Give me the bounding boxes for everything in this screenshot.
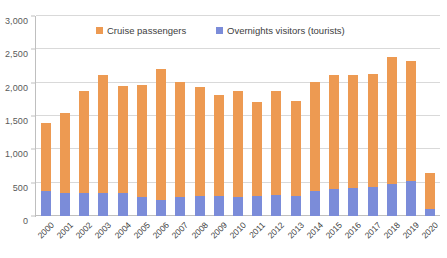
- bar-segment-cruise-passengers: [425, 173, 435, 209]
- x-axis-label-2013: 2013: [283, 220, 306, 243]
- bar-segment-cruise-passengers: [79, 91, 89, 193]
- bar-segment-overnight-visitors: [79, 193, 89, 216]
- bar-segment-overnight-visitors: [233, 197, 243, 216]
- bar-segment-overnight-visitors: [195, 196, 205, 216]
- bar-series-container: [36, 16, 440, 216]
- x-axis-label-2001: 2001: [52, 220, 75, 243]
- bar-2020[interactable]: [425, 173, 435, 216]
- y-axis-tick-mark: [31, 82, 35, 83]
- bar-segment-overnight-visitors: [175, 197, 185, 216]
- bar-2014[interactable]: [310, 82, 320, 216]
- bar-segment-cruise-passengers: [387, 57, 397, 184]
- bar-segment-cruise-passengers: [271, 91, 281, 195]
- bar-segment-overnight-visitors: [252, 196, 262, 216]
- bar-segment-cruise-passengers: [137, 85, 147, 197]
- bar-2015[interactable]: [329, 75, 339, 216]
- x-axis-label-2012: 2012: [264, 220, 287, 243]
- bar-2002[interactable]: [79, 91, 89, 216]
- bar-segment-cruise-passengers: [195, 87, 205, 196]
- x-axis-label-2019: 2019: [399, 220, 422, 243]
- bar-segment-overnight-visitors: [310, 191, 320, 216]
- bar-2019[interactable]: [406, 61, 416, 216]
- bar-segment-cruise-passengers: [98, 75, 108, 193]
- x-axis-label-2007: 2007: [168, 220, 191, 243]
- x-axis-label-2003: 2003: [91, 220, 114, 243]
- y-axis: 05001,0001,5002,0002,5003,000: [0, 16, 32, 216]
- y-axis-tick-mark: [31, 116, 35, 117]
- bar-2007[interactable]: [175, 82, 185, 216]
- x-axis-label-2018: 2018: [379, 220, 402, 243]
- bar-segment-cruise-passengers: [175, 82, 185, 197]
- x-axis-label-2005: 2005: [129, 220, 152, 243]
- bar-2006[interactable]: [156, 69, 166, 216]
- bar-segment-overnight-visitors: [291, 196, 301, 216]
- bar-2009[interactable]: [214, 95, 224, 216]
- bar-segment-cruise-passengers: [329, 75, 339, 188]
- bar-segment-cruise-passengers: [41, 123, 51, 191]
- x-axis-label-2004: 2004: [110, 220, 133, 243]
- y-axis-tick-mark: [31, 16, 35, 17]
- y-axis-tick-mark: [31, 216, 35, 217]
- x-axis-label-2009: 2009: [206, 220, 229, 243]
- x-axis-labels: 2000200120022003200420052006200720082009…: [36, 218, 440, 258]
- bar-segment-overnight-visitors: [156, 200, 166, 216]
- bar-segment-overnight-visitors: [406, 181, 416, 216]
- bar-2008[interactable]: [195, 87, 205, 216]
- bar-2012[interactable]: [271, 91, 281, 216]
- bar-2018[interactable]: [387, 57, 397, 216]
- x-axis-label-2015: 2015: [322, 220, 345, 243]
- x-axis-label-2017: 2017: [360, 220, 383, 243]
- plot-area: [36, 16, 440, 216]
- bar-segment-overnight-visitors: [368, 187, 378, 216]
- bar-segment-cruise-passengers: [156, 69, 166, 200]
- bar-segment-overnight-visitors: [425, 209, 435, 216]
- bar-segment-cruise-passengers: [252, 102, 262, 196]
- bar-segment-overnight-visitors: [214, 196, 224, 216]
- bar-segment-cruise-passengers: [348, 75, 358, 188]
- x-axis-label-2008: 2008: [187, 220, 210, 243]
- bar-segment-overnight-visitors: [137, 197, 147, 216]
- x-axis-label-2010: 2010: [225, 220, 248, 243]
- x-axis-label-2002: 2002: [72, 220, 95, 243]
- bar-2005[interactable]: [137, 85, 147, 216]
- bar-segment-overnight-visitors: [60, 193, 70, 216]
- bar-2001[interactable]: [60, 113, 70, 216]
- bar-segment-cruise-passengers: [60, 113, 70, 193]
- bar-segment-cruise-passengers: [406, 61, 416, 180]
- bar-2003[interactable]: [98, 75, 108, 216]
- bar-segment-overnight-visitors: [98, 193, 108, 216]
- x-axis-label-2020: 2020: [418, 220, 441, 243]
- bar-segment-overnight-visitors: [348, 188, 358, 216]
- y-axis-tick-mark: [31, 149, 35, 150]
- bar-segment-cruise-passengers: [368, 74, 378, 187]
- x-axis-label-2016: 2016: [341, 220, 364, 243]
- bar-2013[interactable]: [291, 101, 301, 216]
- bar-segment-cruise-passengers: [118, 86, 128, 193]
- bar-2004[interactable]: [118, 86, 128, 216]
- bar-2016[interactable]: [348, 75, 358, 216]
- bar-2000[interactable]: [41, 123, 51, 216]
- x-axis-label-2014: 2014: [302, 220, 325, 243]
- bar-segment-cruise-passengers: [310, 82, 320, 191]
- x-axis-label-2011: 2011: [245, 220, 268, 243]
- bar-segment-cruise-passengers: [214, 95, 224, 196]
- bar-segment-overnight-visitors: [387, 184, 397, 216]
- x-axis-label-2000: 2000: [33, 220, 56, 243]
- bar-segment-cruise-passengers: [233, 91, 243, 196]
- bar-segment-cruise-passengers: [291, 101, 301, 196]
- bar-segment-overnight-visitors: [41, 191, 51, 216]
- bar-2010[interactable]: [233, 91, 243, 216]
- bar-segment-overnight-visitors: [271, 195, 281, 216]
- y-axis-tick-mark: [31, 182, 35, 183]
- bar-2011[interactable]: [252, 102, 262, 216]
- bar-segment-overnight-visitors: [118, 193, 128, 216]
- bar-2017[interactable]: [368, 74, 378, 216]
- bar-segment-overnight-visitors: [329, 189, 339, 216]
- stacked-bar-chart: 05001,0001,5002,0002,5003,000 Cruise pas…: [0, 0, 447, 258]
- y-axis-tick-mark: [31, 49, 35, 50]
- x-axis-label-2006: 2006: [148, 220, 171, 243]
